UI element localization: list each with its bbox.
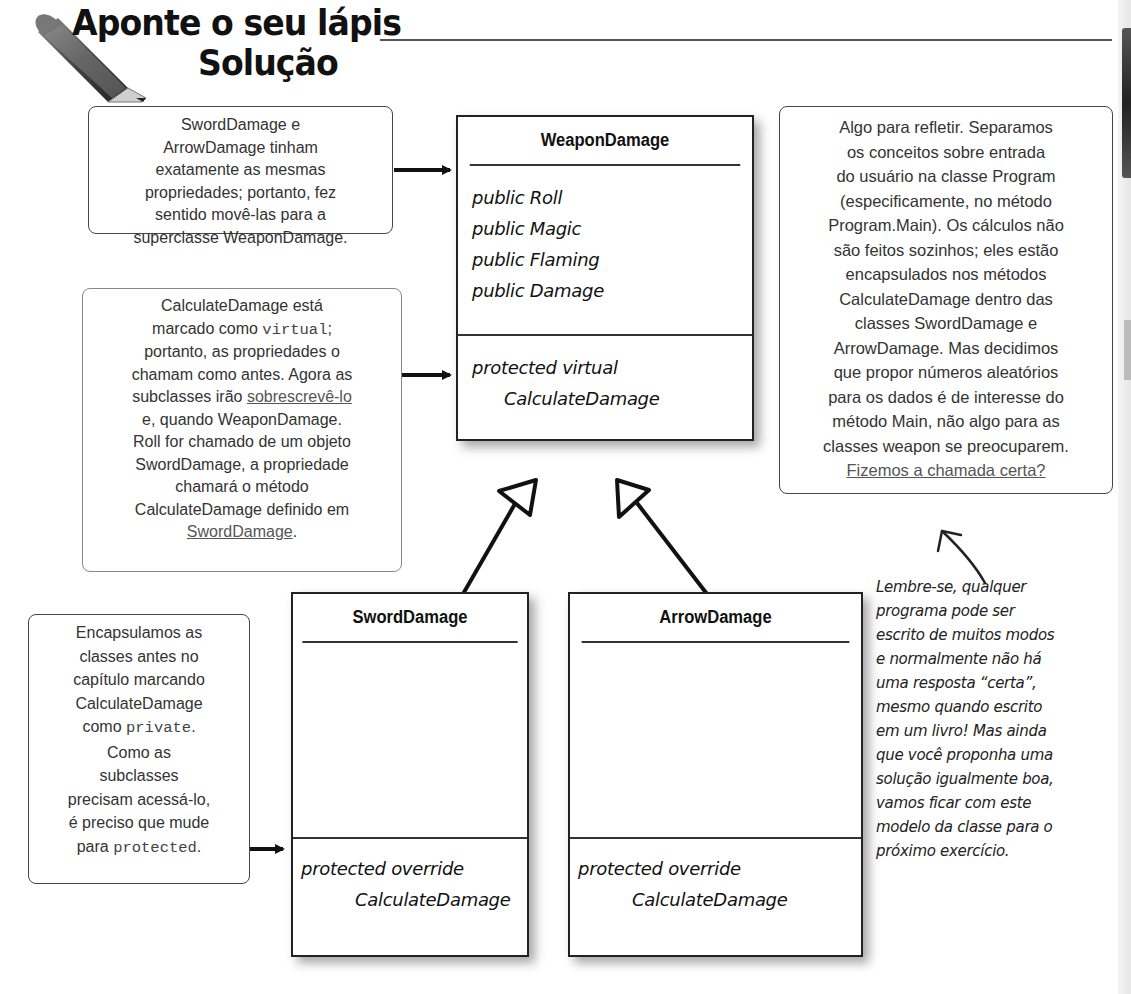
callout-line: Algo para refletir. Separamos bbox=[786, 115, 1106, 140]
callout-line: Roll for chamado de um objeto bbox=[89, 431, 395, 454]
callout-line: chamam como antes. Agora as bbox=[89, 364, 395, 387]
text: . bbox=[197, 838, 201, 855]
text: como bbox=[82, 718, 126, 735]
callout-line: do usuário na classe Program bbox=[786, 164, 1106, 189]
callout-line: e, quando WeaponDamage. bbox=[89, 409, 395, 432]
callout-line: marcado como virtual; bbox=[89, 318, 395, 342]
methods-section: protected override CalculateDamage bbox=[570, 839, 861, 915]
callout-line: são feitos sozinhos; eles estão bbox=[786, 238, 1106, 263]
class-name: WeaponDamage bbox=[470, 117, 740, 166]
class-arrowdamage: ArrowDamage protected override Calculate… bbox=[568, 592, 863, 957]
methods-section: protected override CalculateDamage bbox=[293, 839, 527, 915]
link-chamada-certa[interactable]: Fizemos a chamada certa? bbox=[786, 458, 1106, 483]
text: subclasses irão bbox=[132, 388, 247, 405]
code-keyword: protected bbox=[113, 839, 197, 857]
callout-line: CalculateDamage definido em bbox=[89, 499, 395, 522]
callout-line: superclasse WeaponDamage. bbox=[95, 227, 386, 250]
method-modifiers: protected override bbox=[293, 853, 527, 884]
method-calculatedamage: CalculateDamage bbox=[458, 383, 752, 414]
note-line: uma resposta “certa”, bbox=[876, 671, 1121, 695]
inheritance-arrow bbox=[637, 503, 707, 594]
inheritance-sword bbox=[463, 502, 516, 594]
text: para bbox=[77, 838, 113, 855]
handwritten-note: Lembre-se, qualquer programa pode ser es… bbox=[876, 575, 1121, 863]
callout-line: SwordDamage, a propriedade bbox=[89, 454, 395, 477]
class-name: SwordDamage bbox=[302, 594, 517, 643]
callout-line: é preciso que mude bbox=[35, 811, 243, 835]
callout-line: encapsulados nos métodos bbox=[786, 262, 1106, 287]
method-calculatedamage: CalculateDamage bbox=[293, 884, 527, 915]
properties-section bbox=[293, 643, 527, 839]
properties-section bbox=[570, 643, 861, 839]
code-keyword: virtual bbox=[262, 321, 327, 339]
method-modifiers: protected override bbox=[570, 853, 861, 884]
callout-line: ArrowDamage. Mas decidimos bbox=[786, 336, 1106, 361]
callout-line: Como as bbox=[35, 741, 243, 765]
properties-section: public Roll public Magic public Flaming … bbox=[458, 166, 752, 336]
note-line: programa pode ser bbox=[876, 599, 1121, 623]
property-roll: public Roll bbox=[458, 182, 752, 213]
callout-line: CalculateDamage dentro das bbox=[786, 287, 1106, 312]
callout-line: portanto, as propriedades o bbox=[89, 341, 395, 364]
callout-line: SwordDamage e bbox=[95, 114, 386, 137]
callout-line: ArrowDamage tinham bbox=[95, 137, 386, 160]
callout-line: CalculateDamage está bbox=[89, 295, 395, 318]
note-line: escrito de muitos modos bbox=[876, 623, 1121, 647]
callout-line: para protected. bbox=[35, 835, 243, 861]
callout-line: (especificamente, no método bbox=[786, 189, 1106, 214]
callout-line: para os dados é de interesse do bbox=[786, 385, 1106, 410]
callout-line: SwordDamage. bbox=[89, 521, 395, 544]
note-line: mesmo quando escrito bbox=[876, 695, 1121, 719]
callout-reflect: Algo para refletir. Separamos os conceit… bbox=[779, 106, 1113, 494]
text: ; bbox=[327, 320, 331, 337]
class-sworddamage: SwordDamage protected override Calculate… bbox=[291, 592, 529, 957]
callout-line: Encapsulamos as bbox=[35, 621, 243, 645]
callout-line: Program.Main). Os cálculos não bbox=[786, 213, 1106, 238]
callout-line: classes SwordDamage e bbox=[786, 311, 1106, 336]
callout-line: CalculateDamage bbox=[35, 692, 243, 716]
text: . bbox=[293, 523, 297, 540]
callout-line: capítulo marcando bbox=[35, 668, 243, 692]
callout-virtual: CalculateDamage está marcado como virtua… bbox=[82, 288, 402, 572]
class-weapondamage: WeaponDamage public Roll public Magic pu… bbox=[456, 115, 754, 441]
callout-line: chamará o método bbox=[89, 476, 395, 499]
note-line: vamos ficar com este bbox=[876, 791, 1121, 815]
callout-line: propriedades; portanto, fez bbox=[95, 182, 386, 205]
note-line: modelo da classe para o bbox=[876, 815, 1121, 839]
method-calculatedamage: CalculateDamage bbox=[570, 884, 861, 915]
callout-line: sentido movê-las para a bbox=[95, 204, 386, 227]
callout-line: que propor números aleatórios bbox=[786, 360, 1106, 385]
callout-line: classes antes no bbox=[35, 645, 243, 669]
class-name: ArrowDamage bbox=[582, 594, 850, 643]
callout-line: os conceitos sobre entrada bbox=[786, 140, 1106, 165]
note-line: em um livro! Mas ainda bbox=[876, 719, 1121, 743]
code-keyword: private bbox=[126, 719, 191, 737]
callout-line: classes weapon se preocuparem. bbox=[786, 434, 1106, 459]
callout-line: precisam acessá-lo, bbox=[35, 788, 243, 812]
note-line: solução igualmente boa, bbox=[876, 767, 1121, 791]
property-flaming: public Flaming bbox=[458, 244, 752, 275]
property-magic: public Magic bbox=[458, 213, 752, 244]
callout-line: exatamente as mesmas bbox=[95, 159, 386, 182]
methods-section: protected virtual CalculateDamage bbox=[458, 336, 752, 414]
note-line: Lembre-se, qualquer bbox=[876, 575, 1121, 599]
callout-line: subclasses bbox=[35, 764, 243, 788]
text: marcado como bbox=[152, 320, 262, 337]
callout-encapsulate: Encapsulamos as classes antes no capítul… bbox=[28, 614, 250, 884]
property-damage: public Damage bbox=[458, 275, 752, 306]
note-line: e normalmente não há bbox=[876, 647, 1121, 671]
callout-line: subclasses irão sobrescrevê-lo bbox=[89, 386, 395, 409]
text: . bbox=[191, 718, 195, 735]
note-line: que você proponha uma bbox=[876, 743, 1121, 767]
link-sobrescrever[interactable]: sobrescrevê-lo bbox=[247, 388, 352, 405]
note-line: próximo exercício. bbox=[876, 839, 1121, 863]
method-modifiers: protected virtual bbox=[458, 352, 752, 383]
callout-line: como private. bbox=[35, 715, 243, 741]
callout-line: método Main, não algo para as bbox=[786, 409, 1106, 434]
callout-properties: SwordDamage e ArrowDamage tinham exatame… bbox=[88, 106, 393, 234]
link-sworddamage[interactable]: SwordDamage bbox=[187, 523, 293, 540]
